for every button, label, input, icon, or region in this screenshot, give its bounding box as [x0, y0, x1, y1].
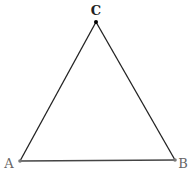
- vertex-label-a: A: [3, 156, 14, 171]
- vertex-label-c: C: [91, 3, 101, 18]
- vertex-label-b: B: [178, 156, 188, 171]
- vertex-point-c: [94, 20, 98, 24]
- vertex-point-b: [173, 158, 177, 162]
- edge-ca: [20, 22, 96, 161]
- triangle-svg: ABC: [0, 0, 192, 190]
- triangle-diagram: ABC: [0, 0, 192, 190]
- edge-bc: [96, 22, 175, 160]
- vertex-point-a: [18, 159, 22, 163]
- edge-ab: [20, 160, 175, 161]
